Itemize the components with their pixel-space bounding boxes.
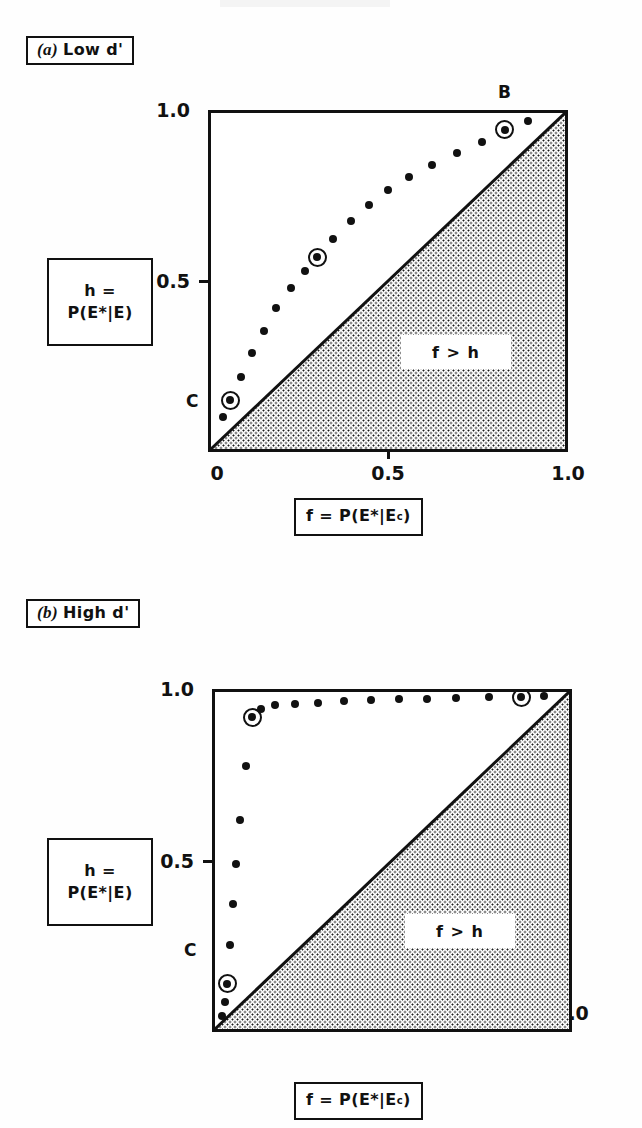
data-point (248, 349, 256, 357)
data-point (219, 413, 227, 421)
data-point (314, 699, 322, 707)
panel-b-x-axis-label-prefix: f = P(E*|E (306, 1091, 397, 1109)
panel-b: (b) High d' h = P(E*|E) f = P(E*|Ec ) 1.… (0, 560, 642, 1128)
panel-a-xtick-1.0: 1.0 (543, 462, 593, 484)
data-point (347, 217, 355, 225)
panel-a-x-axis-label: f = P(E*|Ec ) (294, 498, 423, 536)
data-point (229, 900, 237, 908)
panel-a-ytick-1.0: 1.0 (118, 99, 190, 121)
data-point (287, 284, 295, 292)
highlighted-point-C (221, 391, 240, 410)
data-point (221, 998, 229, 1006)
figure-page: (a) Low d' h = P(E*|E) f = P(E*|Ec ) 1.0… (0, 0, 642, 1128)
panel-b-region-label: f > h (405, 914, 515, 948)
panel-a-shaded-region (211, 113, 565, 449)
highlighted-point-A (243, 708, 262, 727)
data-point (242, 762, 250, 770)
panel-a-xtick-0.5: 0.5 (363, 462, 413, 484)
panel-b-tag-paren: (b) (37, 603, 58, 623)
panel-a-x-axis-label-prefix: f = P(E*|E (306, 507, 397, 525)
data-point (395, 695, 403, 703)
highlighted-point-A (308, 248, 327, 267)
data-point (478, 138, 486, 146)
data-point (291, 700, 299, 708)
highlighted-point-C (218, 974, 237, 993)
data-point (428, 161, 436, 169)
panel-b-shaded-region (215, 692, 569, 1029)
panel-a-tag-text: Low d' (63, 41, 123, 59)
panel-b-x-axis-label: f = P(E*|Ec ) (294, 1082, 423, 1120)
data-point (236, 816, 244, 824)
data-point (384, 186, 392, 194)
panel-b-y-axis-label-line2: P(E*|E) (67, 884, 132, 902)
data-point (271, 701, 279, 709)
data-point (423, 695, 431, 703)
panel-b-x-axis-label-suffix: ) (403, 1091, 411, 1109)
data-point (453, 149, 461, 157)
data-point (340, 697, 348, 705)
panel-a-region-label: f > h (401, 335, 511, 369)
data-point (540, 692, 548, 700)
data-point (272, 304, 280, 312)
data-point (226, 941, 234, 949)
data-point (218, 1012, 226, 1020)
panel-a-xtick-0: 0 (202, 462, 232, 484)
panel-a-tag: (a) Low d' (26, 36, 134, 65)
panel-a-ytick-0.5: 0.5 (118, 270, 190, 292)
panel-b-point-label-C: C (184, 940, 196, 960)
data-point (329, 235, 337, 243)
panel-b-tag-text: High d' (63, 604, 129, 622)
highlighted-point-B (495, 120, 514, 139)
panel-b-tag: (b) High d' (26, 599, 140, 628)
panel-a-point-label-B: B (498, 82, 511, 102)
panel-a-point-label-C: C (186, 391, 198, 411)
data-point (485, 693, 493, 701)
data-point (405, 173, 413, 181)
panel-b-ytick-1.0: 1.0 (122, 678, 194, 700)
data-point (237, 373, 245, 381)
panel-a-y-axis-label-line2: P(E*|E) (67, 304, 132, 322)
panel-b-y-axis-label-line1: h = (84, 862, 116, 880)
panel-a-y-axis-label-line1: h = (84, 282, 116, 300)
panel-a-x-axis-label-suffix: ) (403, 507, 411, 525)
panel-b-ytick-0.5: 0.5 (122, 850, 194, 872)
data-point (365, 201, 373, 209)
data-point (232, 860, 240, 868)
data-point (260, 327, 268, 335)
data-point (452, 694, 460, 702)
data-point (301, 267, 309, 275)
panel-a-tag-paren: (a) (37, 40, 58, 60)
data-point (524, 117, 532, 125)
data-point (367, 696, 375, 704)
panel-a-plot-area: f > h (208, 110, 568, 452)
panel-a: (a) Low d' h = P(E*|E) f = P(E*|Ec ) 1.0… (0, 0, 642, 560)
highlighted-point-B (512, 692, 531, 707)
panel-b-plot-area: f > h (212, 689, 572, 1032)
